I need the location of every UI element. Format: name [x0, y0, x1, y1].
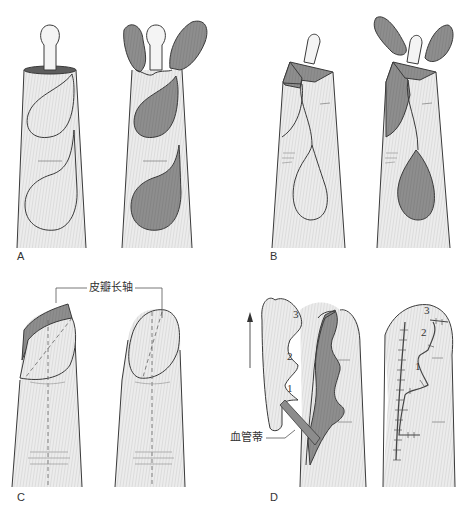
- panel-a-finger-left: [17, 25, 86, 248]
- sutured-number-1: 1: [415, 360, 421, 372]
- panel-d-finger-right: 3 2 1: [383, 304, 455, 487]
- panel-b-finger-right: [374, 17, 453, 248]
- up-arrow-icon: [247, 312, 253, 322]
- panel-label-b: B: [270, 250, 277, 262]
- flap-number-3: 3: [293, 308, 299, 320]
- vascular-pedicle-label: 血管蒂: [228, 432, 265, 444]
- panel-label-c: C: [17, 491, 25, 503]
- panel-label-d: D: [270, 491, 278, 503]
- flap-number-2: 2: [287, 350, 293, 362]
- panel-a-finger-right: [122, 21, 207, 248]
- panel-c-finger-right: [115, 310, 185, 487]
- sutured-number-3: 3: [424, 304, 430, 316]
- sutured-number-2: 2: [421, 326, 427, 338]
- flap-number-1: 1: [287, 382, 293, 394]
- flap-long-axis-label: 皮瓣长轴: [87, 282, 135, 294]
- panel-label-a: A: [17, 250, 24, 262]
- panel-b-finger-left: [272, 34, 345, 248]
- panel-d-finger-left: 3 2 1: [247, 298, 366, 487]
- panel-c-finger-left: [12, 304, 82, 487]
